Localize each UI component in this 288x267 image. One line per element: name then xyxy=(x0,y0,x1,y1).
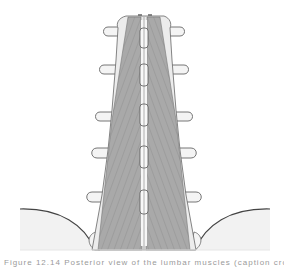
figure-caption: Figure 12.14 Posterior view of the lumba… xyxy=(4,258,284,267)
